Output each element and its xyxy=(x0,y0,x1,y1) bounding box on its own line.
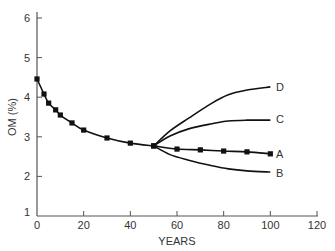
data-point-marker xyxy=(198,147,203,152)
y-tick-label: 5 xyxy=(24,52,30,64)
x-tick-label: 80 xyxy=(218,219,230,231)
y-tick-label: 6 xyxy=(24,12,30,24)
x-tick-label: 40 xyxy=(124,219,136,231)
series-line-c xyxy=(154,120,271,146)
data-point-marker xyxy=(46,101,51,106)
x-tick-label: 20 xyxy=(78,219,90,231)
data-point-marker xyxy=(244,149,249,154)
series-line-d xyxy=(154,87,271,146)
data-point-marker xyxy=(221,148,226,153)
data-point-marker xyxy=(41,91,46,96)
data-point-marker xyxy=(34,76,39,81)
data-point-marker xyxy=(104,135,109,140)
series-lines xyxy=(34,76,273,172)
y-tick-label: 3 xyxy=(24,131,30,143)
series-label-b: B xyxy=(276,167,283,179)
data-point-marker xyxy=(53,107,58,112)
series-label-a: A xyxy=(276,148,284,160)
series-label-d: D xyxy=(276,81,284,93)
y-ticks: 123456 xyxy=(24,12,42,218)
data-point-marker xyxy=(128,141,133,146)
data-point-marker xyxy=(69,120,74,125)
y-tick-label: 1 xyxy=(24,206,30,218)
x-tick-label: 0 xyxy=(34,219,40,231)
y-axis-label: OM (%) xyxy=(6,98,18,136)
x-axis-label: YEARS xyxy=(158,235,195,247)
data-point-marker xyxy=(81,127,86,132)
data-point-marker xyxy=(174,146,179,151)
x-tick-label: 60 xyxy=(171,219,183,231)
data-point-marker xyxy=(58,112,63,117)
x-tick-label: 120 xyxy=(308,219,326,231)
y-tick-label: 4 xyxy=(24,91,30,103)
x-tick-label: 100 xyxy=(261,219,279,231)
x-ticks: 020406080100120 xyxy=(34,211,326,231)
data-point-marker xyxy=(268,151,273,156)
om-chart: 123456 020406080100120 YEARS OM (%) D C … xyxy=(0,0,335,251)
series-label-c: C xyxy=(276,113,284,125)
y-tick-label: 2 xyxy=(24,170,30,182)
series-line-a xyxy=(154,146,271,154)
